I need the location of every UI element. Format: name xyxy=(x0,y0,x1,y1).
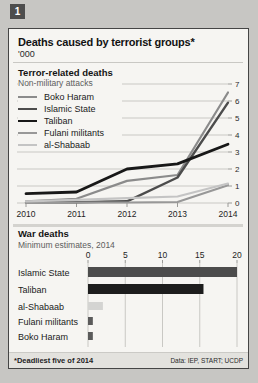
legend-label: Islamic State xyxy=(44,103,96,115)
x-axis-label: 2011 xyxy=(67,209,86,219)
bar-chart-title: War deaths xyxy=(18,228,69,239)
title-divider xyxy=(13,62,243,63)
footnote: *Deadliest five of 2014 xyxy=(14,356,93,365)
legend-label: Boko Haram xyxy=(44,91,94,103)
line-chart-subtitle: Non-military attacks xyxy=(18,78,122,88)
bar-al-shabaab xyxy=(88,302,103,310)
card-unit-label: '000 xyxy=(18,49,35,59)
legend-label: al-Shabaab xyxy=(44,139,90,151)
y-axis-label: 1 xyxy=(235,182,240,191)
card-title: Deaths caused by terrorist groups* xyxy=(18,36,195,48)
bar-taliban xyxy=(88,284,203,294)
card-footer: *Deadliest five of 2014 Data: IEP, START… xyxy=(9,352,248,368)
bar-islamic-state xyxy=(88,267,237,277)
y-axis-label: 6 xyxy=(235,97,240,106)
line-chart-title: Terror-related deaths xyxy=(18,67,122,78)
bar-category-label: Islamic State xyxy=(18,268,70,278)
y-axis-label: 3 xyxy=(235,148,240,157)
legend-swatch-al-shabaab xyxy=(18,144,37,146)
legend-label: Fulani militants xyxy=(44,127,104,139)
bar-category-label: Fulani militants xyxy=(18,317,79,327)
legend-item-taliban: Taliban xyxy=(18,115,122,127)
y-axis-label: 4 xyxy=(235,131,240,140)
legend-item-boko-haram: Boko Haram xyxy=(18,91,122,103)
x-axis-label: 2013 xyxy=(168,209,187,219)
y-axis-label: 5 xyxy=(235,114,240,123)
legend-item-al-shabaab: al-Shabaab xyxy=(18,139,122,151)
bar-category-label: al-Shabaab xyxy=(18,302,64,312)
bar-category-label: Taliban xyxy=(18,285,47,295)
chart-card: Deaths caused by terrorist groups* '000 … xyxy=(8,28,249,369)
legend-swatch-taliban xyxy=(18,120,37,122)
bar-chart-svg: 05101520Islamic StateTalibanal-ShabaabFu… xyxy=(9,249,247,352)
x-axis-label: 2010 xyxy=(17,209,36,219)
y-axis-label: 0 xyxy=(235,199,240,208)
bar-x-axis-label: 0 xyxy=(86,250,91,260)
legend-item-fulani-militants: Fulani militants xyxy=(18,127,122,139)
legend-swatch-boko-haram xyxy=(18,96,37,98)
legend-item-islamic-state: Islamic State xyxy=(18,103,122,115)
page: 1 Deaths caused by terrorist groups* '00… xyxy=(0,0,258,383)
bar-category-label: Boko Haram xyxy=(18,332,68,342)
y-axis-label: 7 xyxy=(235,80,240,89)
bar-boko-haram xyxy=(88,332,93,340)
x-axis-label: 2014 xyxy=(219,209,238,219)
bar-x-axis-label: 10 xyxy=(158,250,168,260)
legend-swatch-fulani-militants xyxy=(18,132,37,134)
figure-number-badge: 1 xyxy=(10,4,25,19)
data-source: Data: IEP, START; UCDP xyxy=(170,357,243,364)
bar-x-axis-label: 5 xyxy=(123,250,128,260)
legend-items: Boko HaramIslamic StateTalibanFulani mil… xyxy=(18,91,122,151)
x-axis-label: 2012 xyxy=(118,209,137,219)
line-chart-legend: Terror-related deaths Non-military attac… xyxy=(18,67,122,151)
legend-swatch-islamic-state xyxy=(18,108,37,110)
bar-x-axis-label: 20 xyxy=(232,250,242,260)
legend-label: Taliban xyxy=(44,115,73,127)
bar-fulani-militants xyxy=(88,317,93,325)
bar-x-axis-label: 15 xyxy=(195,250,205,260)
y-axis-label: 2 xyxy=(235,165,240,174)
section-divider xyxy=(13,224,243,227)
